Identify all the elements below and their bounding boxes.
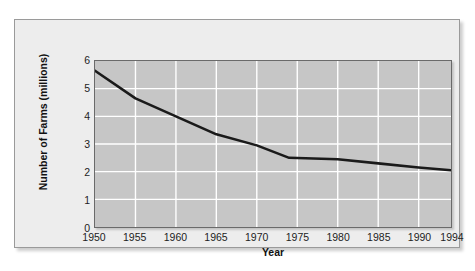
x-tick-label: 1985	[359, 231, 399, 243]
x-tick-label: 1960	[155, 231, 195, 243]
chart-figure: 6 5 4 3 2 1 0	[0, 0, 475, 271]
x-axis-title: Year	[94, 246, 452, 258]
y-axis-tick-labels: 6 5 4 3 2 1 0	[65, 60, 90, 228]
x-tick-label: 1975	[277, 231, 317, 243]
y-tick-label: 4	[68, 111, 90, 121]
x-tick-label: 1955	[115, 231, 155, 243]
data-series-line	[95, 71, 451, 171]
y-tick-label: 1	[68, 195, 90, 205]
x-tick-label: 1994	[432, 231, 472, 243]
chart-panel: 6 5 4 3 2 1 0	[14, 19, 460, 248]
x-tick-label: 1950	[74, 231, 114, 243]
x-tick-label: 1970	[237, 231, 277, 243]
y-tick-label: 5	[68, 83, 90, 93]
y-tick-label: 2	[68, 167, 90, 177]
x-tick-label: 1965	[196, 231, 236, 243]
plot-area	[94, 60, 452, 228]
x-tick-label: 1980	[318, 231, 358, 243]
y-axis-title: Number of Farms (millions)	[37, 32, 49, 212]
x-axis-tick-labels: 1950 1955 1960 1965 1970 1975 1980 1985 …	[94, 231, 452, 245]
y-tick-label: 6	[68, 55, 90, 65]
plot-svg	[95, 61, 451, 227]
y-tick-label: 3	[68, 139, 90, 149]
